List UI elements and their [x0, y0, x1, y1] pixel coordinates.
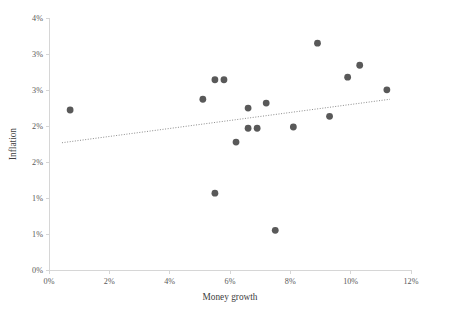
y-axis-title: Inflation [8, 128, 18, 160]
y-tick-label: 0% [32, 266, 43, 275]
data-point [221, 76, 228, 83]
y-tick-label: 4% [32, 14, 43, 23]
y-tick-label: 3% [32, 86, 43, 95]
x-tick-label: 4% [164, 277, 175, 286]
data-point [290, 124, 297, 131]
data-point [326, 113, 333, 120]
data-point [314, 40, 321, 47]
x-tick-label: 6% [225, 277, 236, 286]
x-axis-title: Money growth [202, 292, 257, 302]
x-tick-label: 2% [104, 277, 115, 286]
x-axis: 0%2%4%6%8%10%12% [44, 270, 419, 286]
data-point [272, 227, 279, 234]
data-point [233, 139, 240, 146]
y-axis: 4%3%3%2%2%1%1%0% [32, 14, 49, 275]
data-point [263, 100, 270, 107]
data-point [254, 125, 261, 132]
data-point [212, 190, 219, 197]
data-point [383, 86, 390, 93]
y-tick-label: 1% [32, 230, 43, 239]
data-point [199, 96, 206, 103]
y-tick-label: 2% [32, 158, 43, 167]
x-tick-label: 12% [403, 277, 418, 286]
x-tick-label: 8% [285, 277, 296, 286]
data-point [245, 125, 252, 132]
data-point [67, 107, 74, 114]
y-tick-label: 1% [32, 194, 43, 203]
data-point [212, 76, 219, 83]
x-tick-label: 10% [343, 277, 358, 286]
data-point [356, 62, 363, 69]
y-tick-label: 3% [32, 50, 43, 59]
x-tick-label: 0% [44, 277, 55, 286]
trendline [62, 99, 390, 142]
scatter-chart-figure: 4%3%3%2%2%1%1%0% 0%2%4%6%8%10%12% Money … [0, 0, 456, 313]
data-point [344, 74, 351, 81]
data-points [67, 40, 391, 234]
plot-svg: 4%3%3%2%2%1%1%0% 0%2%4%6%8%10%12% Money … [0, 0, 456, 313]
data-point [245, 105, 252, 112]
y-tick-label: 2% [32, 122, 43, 131]
